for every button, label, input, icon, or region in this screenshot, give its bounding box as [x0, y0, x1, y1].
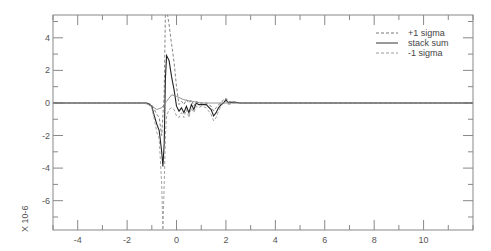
y-tick-labels: -6-4-2024: [42, 33, 50, 206]
y-tick-label: -4: [42, 163, 50, 173]
line-chart: -4-20246810 -6-4-2024 X 10-6 +1 sigma st…: [0, 0, 491, 251]
series-stack-sum: [53, 56, 473, 167]
y-tick-label: 4: [45, 33, 50, 43]
x-tick-label: 2: [223, 235, 228, 245]
x-tick-label: 6: [322, 235, 327, 245]
x-tick-label: 0: [174, 235, 179, 245]
legend-label-stack-sum: stack sum: [408, 38, 449, 48]
x-tick-label: -4: [74, 235, 82, 245]
series-reference: [53, 95, 473, 110]
x-tick-label: -2: [123, 235, 131, 245]
x-tick-labels: -4-20246810: [74, 235, 429, 245]
y-scale-label: X 10-6: [20, 205, 30, 232]
legend: +1 sigma stack sum -1 sigma: [376, 28, 449, 58]
x-tick-label: 10: [419, 235, 429, 245]
y-tick-label: 2: [45, 65, 50, 75]
y-tick-label: -2: [42, 131, 50, 141]
legend-label-plus-sigma: +1 sigma: [408, 28, 445, 38]
series--1-sigma: [53, 101, 473, 230]
x-tick-label: 4: [273, 235, 278, 245]
y-tick-label: -6: [42, 196, 50, 206]
legend-label-minus-sigma: -1 sigma: [408, 48, 443, 58]
y-tick-label: 0: [45, 98, 50, 108]
x-tick-label: 8: [372, 235, 377, 245]
